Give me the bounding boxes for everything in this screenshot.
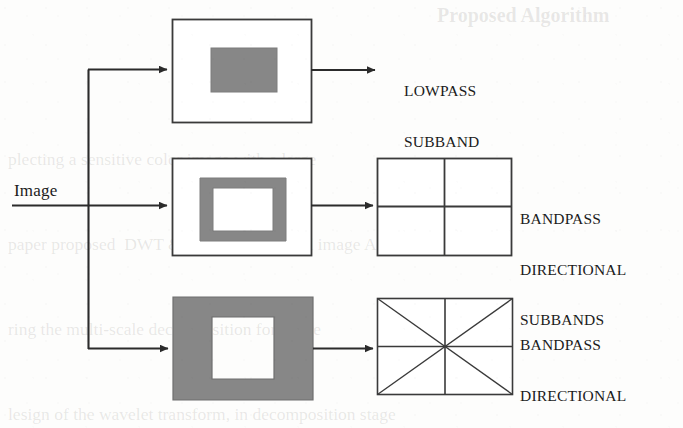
input-trunk	[12, 70, 89, 350]
bandpass-label-line: DIRECTIONAL	[520, 262, 626, 279]
lowpass-subband-label-line: SUBBAND	[404, 134, 479, 151]
input-label-image: Image	[14, 182, 57, 200]
bandpass-filter-box-level-2	[173, 297, 313, 400]
directional-subbands-box-8	[378, 299, 513, 395]
lowpass-subband-label: LOWPASS SUBBAND	[404, 50, 479, 184]
figure-container: Proposed Algorithm plecting a sensitive …	[0, 0, 683, 428]
bandpass-filter-box-level-1	[173, 159, 312, 256]
lowpass-subband-label-line: LOWPASS	[404, 83, 479, 100]
bandpass-label-line: BANDPASS	[520, 211, 626, 228]
bandpass-directional-subbands-label-level-2: BANDPASS DIRECTIONAL SUBBANDS	[520, 304, 626, 428]
bandpass-label-line: DIRECTIONAL	[520, 388, 626, 405]
bandpass-label-line: BANDPASS	[520, 337, 626, 354]
lowpass-filter-box	[173, 20, 312, 123]
